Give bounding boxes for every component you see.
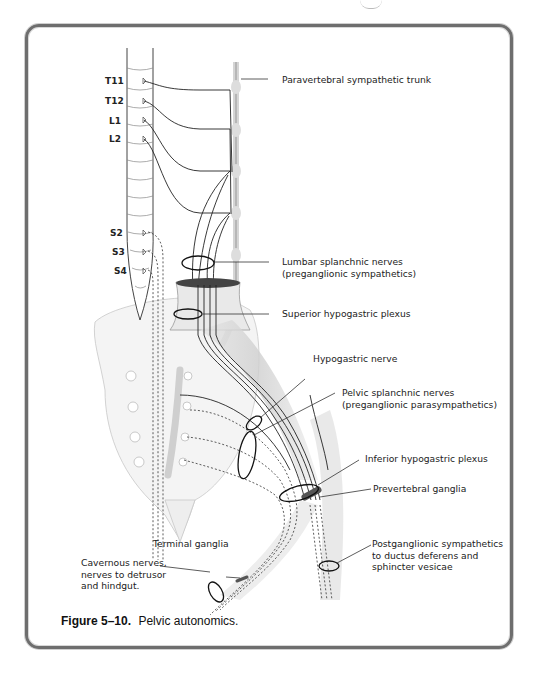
segment-label-s2: S2 (110, 228, 123, 238)
label-cavernous-nerves: Cavernous nerves, nerves to detrusor and… (81, 557, 167, 592)
figure-caption: Figure 5–10. Pelvic autonomics. (61, 614, 238, 628)
segment-label-s4: S4 (114, 266, 127, 276)
label-postganglionic-line2: to ductus deferens and (372, 550, 503, 562)
label-cavernous-line2: nerves to detrusor (81, 569, 167, 581)
label-inferior-hypogastric: Inferior hypogastric plexus (365, 453, 488, 465)
label-lumbar-splanchnic: Lumbar splanchnic nerves (preganglionic … (282, 256, 416, 279)
segment-label-t11: T11 (105, 76, 124, 86)
label-postganglionic-line3: sphincter vesicae (372, 561, 503, 573)
segment-label-t12: T12 (105, 96, 124, 106)
segment-label-s3: S3 (112, 247, 125, 257)
label-lumbar-splanchnic-line1: Lumbar splanchnic nerves (282, 256, 416, 268)
label-prevertebral-ganglia: Prevertebral ganglia (373, 483, 466, 495)
label-terminal-ganglia: Terminal ganglia (153, 538, 229, 550)
label-pelvic-splanchnic: Pelvic splanchnic nerves (preganglionic … (342, 387, 497, 410)
label-pelvic-splanchnic-line2: (preganglionic parasympathetics) (342, 399, 497, 411)
preganglionic-sympathetic-fibers (144, 81, 232, 290)
label-postganglionic-line1: Postganglionic sympathetics (372, 538, 503, 550)
rectum-band (220, 500, 318, 600)
figure-number: Figure 5–10. (61, 614, 131, 628)
aortic-opening (176, 278, 240, 288)
figure-title: Pelvic autonomics. (138, 614, 238, 628)
segment-label-l2: L2 (109, 134, 121, 144)
segment-label-l1: L1 (109, 116, 121, 126)
label-paravertebral-trunk: Paravertebral sympathetic trunk (282, 74, 431, 86)
label-hypogastric-nerve: Hypogastric nerve (313, 353, 397, 365)
label-lumbar-splanchnic-line2: (preganglionic sympathetics) (282, 268, 416, 280)
label-pelvic-splanchnic-line1: Pelvic splanchnic nerves (342, 387, 497, 399)
label-postganglionic-sympathetics: Postganglionic sympathetics to ductus de… (372, 538, 503, 573)
label-superior-hypogastric: Superior hypogastric plexus (282, 308, 411, 320)
label-cavernous-line1: Cavernous nerves, (81, 557, 167, 569)
label-cavernous-line3: and hindgut. (81, 580, 167, 592)
